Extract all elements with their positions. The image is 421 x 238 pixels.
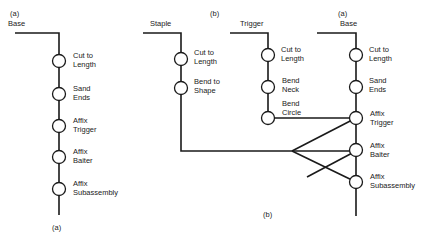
part-a-component-label: Base [8,19,25,28]
op-label: Circle [282,108,301,117]
op-label: Subassembly [73,188,118,197]
op-label: Sand [73,84,91,93]
op-node [53,151,66,164]
op-node [262,81,275,94]
part-b-caption: (b) [263,210,273,219]
part-b-chart: (b) (a) Staple Cut to Length Bend to Sha… [143,9,415,219]
op-node [350,176,363,189]
op-label: Length [73,60,96,69]
op-label: Affix [73,147,88,156]
op-node [53,55,66,68]
op-node [262,112,275,125]
op-node [350,112,363,125]
op-label: Trigger [73,125,97,134]
part-b-title: (b) [210,9,220,18]
baiter-input-line [307,151,356,177]
op-label: Affix [73,179,88,188]
part-a-title: (a) [10,9,20,18]
op-label: Baiter [370,150,390,159]
op-label: Bend [282,99,300,108]
op-label: Cut to [194,48,214,57]
part-a-chart: (a) Base Cut to Length Sand Ends Affix T… [8,9,118,232]
op-label: Sand [369,76,387,85]
op-label: Affix [370,141,385,150]
trigger-component-label: Trigger [240,19,264,28]
op-node [262,49,275,62]
op-label: Bend [282,76,300,85]
op-label: Baiter [73,156,93,165]
op-node [175,82,188,95]
op-label: Length [369,54,392,63]
assembly-chart: (a) Base Cut to Length Sand Ends Affix T… [0,0,421,238]
op-node [350,81,363,94]
op-label: Cut to [73,51,93,60]
op-label: Affix [73,116,88,125]
op-node [350,49,363,62]
part-a-caption: (a) [52,223,62,232]
op-label: Bend to [194,77,220,86]
op-label: Length [281,54,304,63]
op-label: Affix [370,109,385,118]
op-label: Ends [369,85,386,94]
op-label: Cut to [281,45,301,54]
op-label: Subassembly [370,181,415,190]
op-label: Affix [370,172,385,181]
op-node [53,88,66,101]
op-label: Length [194,57,217,66]
staple-to-affix-trigger-line [292,118,356,151]
base-b-component-label: Base [340,19,357,28]
op-node [350,144,363,157]
staple-component-label: Staple [150,19,171,28]
op-node [53,120,66,133]
op-label: Shape [194,86,216,95]
op-label: Neck [282,85,299,94]
part-b-base-title: (a) [338,9,348,18]
op-label: Ends [73,93,90,102]
op-node [175,53,188,66]
op-node [53,183,66,196]
op-label: Cut to [369,45,389,54]
base-b-flow-line [317,33,356,216]
op-label: Trigger [370,118,394,127]
